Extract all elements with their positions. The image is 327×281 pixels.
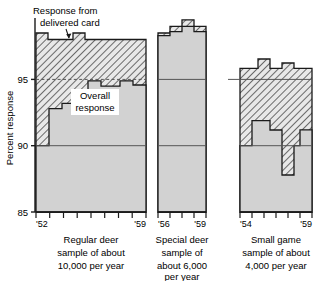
panel1-x-ticks (36, 212, 146, 218)
panel1-caption-line-1: Regular deer (64, 234, 119, 245)
panel3-caption-line-3: 4,000 per year (245, 260, 306, 271)
panel1-x-end-label: '59 (134, 219, 146, 229)
panel2-x-start-label: '56 (158, 219, 170, 229)
panel-regular-deer: '52 '59 Regular deer sample of about 10,… (36, 33, 146, 271)
panel1-x-start-label: '52 (36, 219, 48, 229)
y-tick-label-85: 85 (17, 207, 28, 218)
overall-response-annotation: Overall response (71, 89, 119, 115)
chart-container: 85 90 95 Percent response '52 '59 Regula… (0, 0, 327, 281)
y-tick-label-90: 90 (17, 140, 28, 151)
panel2-caption-line-4: per year (165, 271, 200, 281)
panel3-x-start-label: '54 (240, 219, 252, 229)
response-chart-svg: 85 90 95 Percent response '52 '59 Regula… (0, 0, 327, 281)
panel-small-game: '54 '59 Small game sample of about 4,000… (228, 59, 312, 271)
delivered-card-annotation-line-1: Response from (33, 5, 98, 16)
y-axis-title: Percent response (4, 91, 15, 165)
panel-special-deer: '56 '59 Special deer sample of about 6,0… (156, 20, 209, 281)
panel3-caption-line-2: sample of about (242, 247, 310, 258)
delivered-card-arrowhead (66, 34, 71, 39)
panel2-caption-line-3: about 6,000 (157, 260, 207, 271)
y-axis: 85 90 95 Percent response (4, 18, 35, 218)
special-deer-overall-response-area (158, 26, 206, 212)
panel1-caption-line-3: 10,000 per year (58, 260, 125, 271)
panel2-caption-line-1: Special deer (156, 234, 209, 245)
panel3-x-end-label: '59 (300, 219, 312, 229)
panel1-caption-line-2: sample of about (57, 247, 125, 258)
y-tick-label-95: 95 (17, 74, 28, 85)
overall-response-annotation-line-2: response (75, 102, 114, 113)
panel2-caption-line-2: sample of (161, 247, 203, 258)
delivered-card-annotation-line-2: delivered card (40, 17, 100, 28)
panel2-x-ticks (158, 212, 206, 218)
panel3-x-ticks (240, 212, 312, 218)
overall-response-annotation-line-1: Overall (80, 90, 110, 101)
panel3-caption-line-1: Small game (251, 234, 301, 245)
panel2-x-end-label: '59 (194, 219, 206, 229)
